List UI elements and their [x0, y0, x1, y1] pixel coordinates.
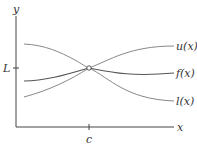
x-axis-label: x	[177, 121, 184, 134]
curve-label-l: l(x)	[176, 95, 194, 108]
curve-label-f: f(x)	[175, 67, 195, 80]
squeeze-theorem-diagram: y x L c u(x) f(x) l(x)	[0, 0, 197, 148]
curve-label-u: u(x)	[176, 40, 197, 53]
x-tick-label-c: c	[86, 133, 92, 146]
meeting-point-open-circle	[87, 66, 91, 70]
y-tick-label-L: L	[2, 62, 10, 75]
lower-curve-l	[24, 68, 174, 101]
y-axis-label: y	[12, 3, 20, 16]
function-curve-f	[24, 68, 174, 81]
upper-curve-u	[24, 44, 174, 68]
